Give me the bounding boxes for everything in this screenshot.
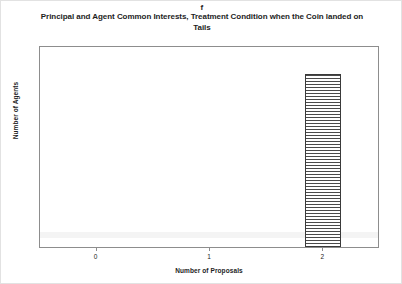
chart-page: f Principal and Agent Common Interests, …	[0, 0, 402, 284]
x-tick-mark	[96, 248, 97, 251]
chart-title: Principal and Agent Common Interests, Tr…	[37, 12, 367, 33]
x-tick-label: 0	[76, 253, 116, 260]
y-axis-label: Number of Agents	[12, 61, 19, 161]
panel-label: f	[1, 3, 402, 12]
bar	[305, 74, 341, 247]
x-tick-mark	[209, 248, 210, 251]
plot-frame	[39, 46, 379, 248]
x-axis-label: Number of Proposals	[39, 267, 379, 274]
x-tick-label: 2	[302, 253, 342, 260]
plot-area	[40, 47, 378, 247]
x-tick-mark	[322, 248, 323, 251]
x-tick-label: 1	[189, 253, 229, 260]
